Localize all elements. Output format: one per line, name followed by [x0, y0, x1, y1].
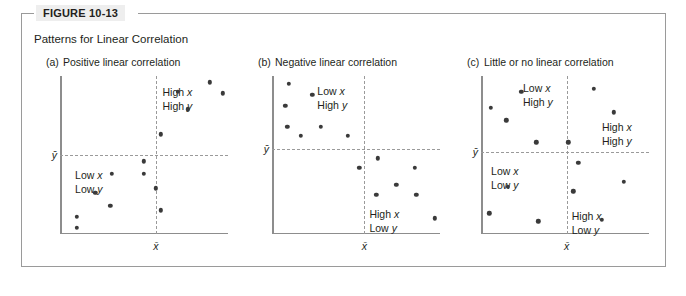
panel-b-annotation-lower-right-line2: Low y: [369, 221, 399, 235]
panel-c-y-axis: [481, 76, 483, 234]
panel-c-annotation-lower-left-line1: Low x: [491, 164, 518, 178]
panel-c-data-point: [504, 118, 508, 122]
panel-a-data-point: [159, 208, 163, 212]
panel-no-correlation: (c)Little or no linear correlation ȳx̄Lo…: [455, 56, 661, 252]
panel-c-annotation-lower-right: High xLow y: [572, 209, 602, 237]
panel-c-annotation-lower-right-line1: High x: [572, 209, 602, 223]
panel-c-data-point: [622, 180, 626, 184]
panel-c-x-axis: [481, 233, 649, 235]
panel-b-data-point: [287, 82, 291, 86]
panel-c-annotation-upper-left-line2: High y: [523, 95, 553, 109]
panel-c-data-point: [576, 161, 580, 165]
panel-a-annotation-lower-left-line2: Low y: [75, 182, 102, 196]
panel-c-data-point: [600, 218, 604, 222]
panel-a-plot-area: ȳx̄High xHigh yLow xLow y: [60, 76, 228, 234]
panel-a-caption-text: Positive linear correlation: [63, 56, 180, 68]
panel-b-data-point: [413, 165, 417, 169]
panel-a-annotation-lower-left: Low xLow y: [75, 168, 102, 196]
panel-c-data-point: [489, 105, 493, 109]
panel-c-annotation-upper-left-line1: Low x: [523, 81, 553, 95]
panel-c-annotation-upper-right-line2: High y: [602, 134, 632, 148]
panel-b-annotation-upper-left-line2: High y: [317, 98, 347, 112]
panel-b-data-point: [285, 124, 289, 128]
panel-b-data-point: [319, 124, 323, 128]
panel-b-plot-area: ȳx̄Low xHigh yHigh xLow y: [272, 76, 440, 234]
panel-c-data-point: [534, 140, 538, 144]
panel-c-annotation-upper-left: Low xHigh y: [523, 81, 553, 109]
panel-a-data-point: [154, 186, 158, 190]
panel-a-data-point: [110, 172, 114, 176]
panel-a-y-mean-label: ȳ: [52, 149, 60, 161]
panel-b-x-mean-line: [364, 76, 365, 234]
panel-b-data-point: [283, 104, 287, 108]
panel-b-y-mean-label: ȳ: [264, 143, 272, 155]
panel-c-data-point: [566, 140, 570, 144]
panel-a-caption-letter: (a): [46, 56, 63, 68]
panel-c-caption: (c)Little or no linear correlation: [467, 56, 614, 68]
figure-title: Patterns for Linear Correlation: [34, 33, 188, 45]
panel-a-data-point: [75, 225, 79, 229]
panel-a-data-point: [142, 172, 146, 176]
panel-a-x-mean-line: [156, 76, 157, 234]
panel-b-annotation-upper-left-line1: Low x: [317, 84, 347, 98]
panel-c-y-mean-line: [481, 152, 649, 153]
panel-c-data-point: [536, 219, 540, 223]
panel-b-caption: (b)Negative linear correlation: [258, 56, 397, 68]
figure-number-label: FIGURE 10-13: [36, 5, 125, 21]
panel-c-data-point: [571, 189, 575, 193]
panel-a-x-axis: [60, 233, 228, 235]
panel-a-data-point: [159, 132, 163, 136]
panel-c-data-point: [591, 86, 595, 90]
panel-a-x-mean-label: x̄: [153, 237, 158, 252]
panel-b-y-mean-line: [272, 149, 440, 150]
panel-c-annotation-upper-right: High xHigh y: [602, 120, 632, 148]
panel-a-data-point: [75, 214, 79, 218]
panel-positive-correlation: (a)Positive linear correlation ȳx̄High x…: [34, 56, 240, 252]
panel-b-data-point: [345, 134, 349, 138]
panel-c-annotation-upper-right-line1: High x: [602, 120, 632, 134]
panel-a-caption: (a)Positive linear correlation: [46, 56, 180, 68]
panel-a-data-point: [142, 159, 146, 163]
panel-b-data-point: [357, 165, 361, 169]
panel-b-x-axis: [272, 233, 440, 235]
panel-c-caption-text: Little or no linear correlation: [484, 56, 614, 68]
panel-c-annotation-lower-left: Low xLow y: [491, 164, 518, 192]
panel-a-y-mean-line: [60, 155, 228, 156]
panel-c-annotation-lower-right-line2: Low y: [572, 223, 602, 237]
panel-b-data-point: [310, 93, 314, 97]
panel-b-x-mean-label: x̄: [362, 237, 367, 252]
panel-b-data-point: [394, 183, 398, 187]
panel-c-data-point: [612, 110, 616, 114]
panel-a-data-point: [221, 91, 225, 95]
panel-b-data-point: [433, 216, 437, 220]
panel-a-annotation-lower-left-line1: Low x: [75, 168, 102, 182]
panel-b-data-point: [374, 192, 378, 196]
panel-c-plot-area: ȳx̄Low xHigh yHigh xHigh yLow xLow yHigh…: [481, 76, 649, 234]
panel-b-annotation-upper-left: Low xHigh y: [317, 84, 347, 112]
panel-b-annotation-lower-right-line1: High x: [369, 207, 399, 221]
panel-c-caption-letter: (c): [467, 56, 484, 68]
panel-b-annotation-lower-right: High xLow y: [369, 207, 399, 235]
panel-b-data-point: [298, 134, 302, 138]
panel-a-data-point: [207, 80, 211, 84]
panel-negative-correlation: (b)Negative linear correlation ȳx̄Low xH…: [246, 56, 452, 252]
panel-c-x-mean-label: x̄: [564, 237, 569, 252]
panel-c-data-point: [487, 211, 491, 215]
panel-c-x-mean-line: [567, 76, 568, 234]
panel-b-data-point: [376, 156, 380, 160]
panel-b-data-point: [414, 192, 418, 196]
panel-b-y-axis: [272, 76, 274, 234]
panel-c-y-mean-label: ȳ: [473, 146, 481, 158]
panel-a-data-point: [108, 203, 112, 207]
panel-b-caption-text: Negative linear correlation: [275, 56, 397, 68]
panel-b-caption-letter: (b): [258, 56, 275, 68]
